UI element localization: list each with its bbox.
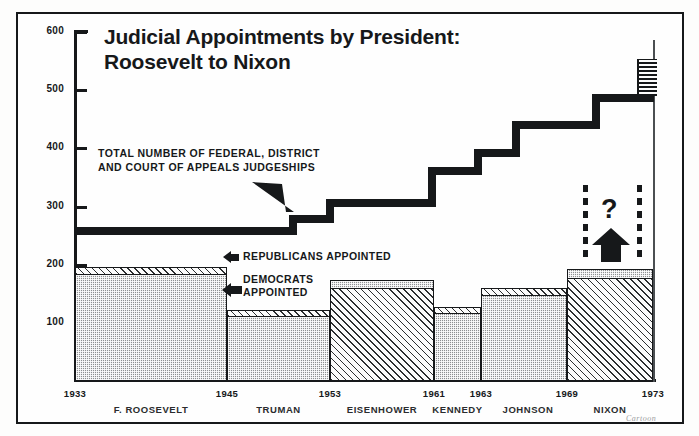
projected-expansion-block [637,59,657,96]
y-label-500: 500 [30,83,64,94]
step-segment-1933 [75,227,297,235]
x-year-1973: 1973 [633,388,673,399]
projection-dashed-line-left [583,185,588,263]
step-segment-1969 [512,121,600,129]
total-judgeships-line-2: AND COURT OF APPEALS JUDGESHIPS [98,160,320,174]
x-year-1933: 1933 [55,388,95,399]
bar-segment-democrats [331,281,433,288]
x-president-f-roosevelt: F. ROOSEVELT [75,404,227,415]
x-year-1961: 1961 [414,388,454,399]
y-tick-500 [74,89,87,92]
bar-segment-democrats [568,270,652,278]
bar-segment-democrats [76,274,226,380]
y-tick-400 [74,147,87,150]
question-mark-callout: ? [601,196,618,223]
y-tick-300 [74,206,87,209]
democrats-legend-line-2: APPOINTED [243,286,308,298]
x-president-johnson: JOHNSON [489,404,567,415]
x-year-1945: 1945 [207,388,247,399]
y-label-100: 100 [30,316,64,327]
annotation-pointer-wedge [252,182,294,214]
projection-dashed-line-right [637,185,642,263]
artist-signature: Cartoon [626,414,656,423]
bar-johnson [481,288,567,381]
bar-segment-republicans [568,278,652,380]
chart-title-line-2: Roosevelt to Nixon [104,49,464,74]
bar-truman [227,310,330,381]
chart-page: 600 500 400 300 200 100 Judicial Appoint… [0,0,699,436]
chart-title: Judicial Appointments by President: Roos… [104,24,464,74]
y-label-400: 400 [30,141,64,152]
y-label-200: 200 [30,258,64,269]
y-label-600: 600 [30,25,64,36]
bar-eisenhower [330,280,434,381]
democrats-legend-line-1: DEMOCRATS [243,273,314,285]
republicans-legend-label: REPUBLICANS APPOINTED [243,250,391,263]
total-judgeships-line-1: TOTAL NUMBER OF FEDERAL, DISTRICT [98,146,320,160]
x-year-1963: 1963 [461,388,501,399]
x-year-1953: 1953 [310,388,350,399]
chart-title-line-1: Judicial Appointments by President: [104,24,464,49]
plot-area: 600 500 400 300 200 100 Judicial Appoint… [0,0,699,436]
bar-segment-democrats [228,316,329,380]
y-label-300: 300 [30,200,64,211]
democrats-legend-label: DEMOCRATS APPOINTED [243,273,314,299]
y-tick-600 [74,31,87,34]
x-president-eisenhower: EISENHOWER [330,404,434,415]
democrats-legend-arrow-icon [222,282,242,297]
bar-segment-democrats [435,313,480,380]
republicans-legend-arrow-icon [223,250,239,263]
x-president-truman: TRUMAN [227,404,330,415]
total-judgeships-annotation: TOTAL NUMBER OF FEDERAL, DISTRICT AND CO… [98,146,320,174]
x-president-kennedy: KENNEDY [426,404,489,415]
x-year-1969: 1969 [547,388,587,399]
bar-nixon [567,269,653,381]
bar-segment-democrats [482,295,566,380]
step-segment-1953 [326,199,436,207]
bar-kennedy [434,307,481,381]
bar-f-roosevelt [75,267,227,381]
bar-segment-republicans [331,288,433,380]
growth-up-arrow-icon [592,228,630,262]
